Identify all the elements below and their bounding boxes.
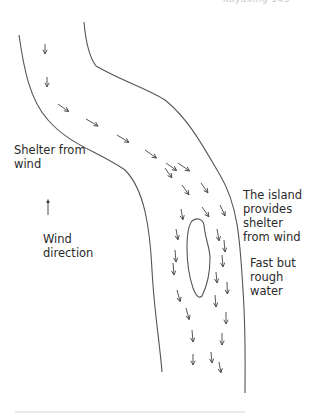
left-river-bank	[19, 35, 162, 372]
label-wind-direction: Wind direction	[43, 232, 93, 260]
flow-arrow-icon	[176, 229, 178, 240]
flow-arrow-icon	[222, 255, 223, 267]
flow-arrow-icon	[202, 207, 209, 217]
flow-arrow-icon	[220, 205, 225, 216]
flow-arrow-icon	[145, 150, 157, 158]
label-island-shelter: The island provides shelter from wind	[243, 188, 302, 244]
flow-arrow-icon	[224, 240, 225, 252]
flow-arrow-icon	[182, 185, 189, 195]
cropped-caption	[15, 408, 245, 416]
flow-arrow-icon	[186, 308, 189, 320]
flow-arrow-icon	[175, 250, 176, 262]
label-fast-rough-water: Fast but rough water	[250, 256, 296, 298]
flow-arrow-icon	[192, 330, 193, 342]
flow-arrow-icon	[177, 290, 180, 302]
flow-arrow-icon	[216, 272, 217, 283]
flow-arrow-icon	[173, 263, 174, 275]
label-shelter-from-wind: Shelter from wind	[14, 143, 86, 171]
flow-arrow-icon	[217, 229, 219, 241]
flow-arrow-icon	[58, 104, 69, 112]
water-flow-arrows	[45, 44, 227, 373]
flow-arrow-icon	[117, 135, 129, 142]
flow-arrow-icon	[181, 209, 183, 220]
flow-arrow-icon	[219, 362, 221, 373]
flow-arrow-icon	[215, 295, 216, 307]
flow-arrow-icon	[201, 183, 208, 193]
flow-arrow-icon	[166, 163, 177, 171]
flow-arrow-icon	[86, 119, 98, 126]
flow-arrow-icon	[165, 168, 172, 178]
flow-arrow-icon	[178, 163, 190, 171]
island-outline	[187, 219, 210, 297]
flow-arrow-icon	[211, 352, 212, 363]
